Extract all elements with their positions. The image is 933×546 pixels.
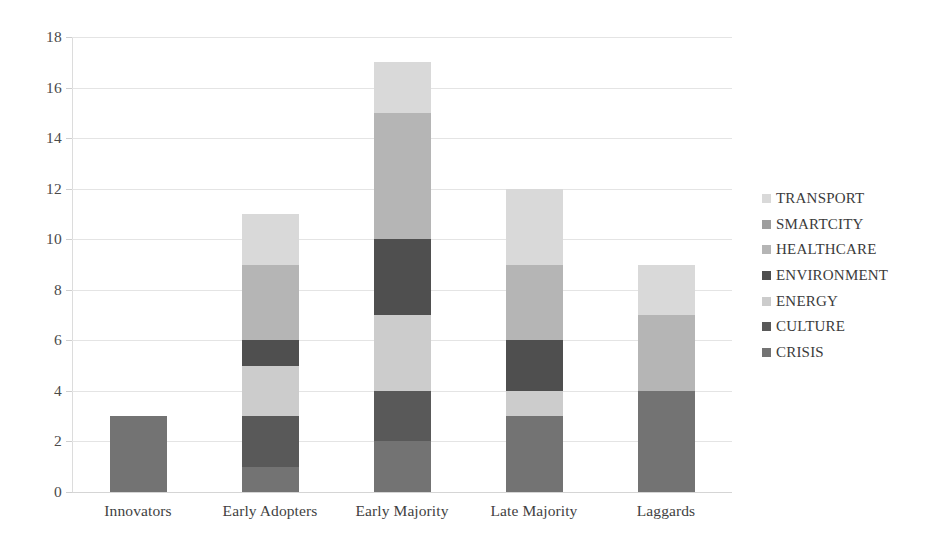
bar-segment-crisis[interactable] [638, 391, 695, 492]
bar-segment-transport[interactable] [506, 189, 563, 265]
bar-segment-crisis[interactable] [242, 467, 299, 492]
legend-item-energy[interactable]: ENERGY [762, 288, 888, 314]
legend-swatch-icon [762, 245, 771, 254]
bar-segment-transport[interactable] [638, 265, 695, 316]
bar-segment-transport[interactable] [242, 214, 299, 265]
x-tick-label: Innovators [72, 502, 204, 520]
plot-area [72, 37, 732, 492]
legend-label: ENERGY [776, 293, 838, 310]
bar-segment-energy[interactable] [506, 391, 563, 416]
legend-label: ENVIRONMENT [776, 267, 888, 284]
x-tick-label: Late Majority [468, 502, 600, 520]
bar-segment-energy[interactable] [242, 366, 299, 417]
y-tick-label: 14 [46, 129, 62, 147]
bar-stack-laggards[interactable] [638, 37, 695, 492]
bar-segment-environment[interactable] [374, 239, 431, 315]
x-tick-label: Early Adopters [204, 502, 336, 520]
bar-segment-crisis[interactable] [110, 416, 167, 492]
gridline [72, 492, 732, 493]
legend-item-culture[interactable]: CULTURE [762, 314, 888, 340]
y-tick-label: 2 [54, 432, 62, 450]
legend-swatch-icon [762, 348, 771, 357]
legend-label: TRANSPORT [776, 190, 864, 207]
bar-segment-environment[interactable] [242, 340, 299, 365]
y-tick-label: 18 [46, 28, 62, 46]
y-tick-label: 6 [54, 331, 62, 349]
legend-swatch-icon [762, 194, 771, 203]
legend-item-environment[interactable]: ENVIRONMENT [762, 263, 888, 289]
bar-segment-healthcare[interactable] [638, 315, 695, 391]
legend-label: HEALTHCARE [776, 241, 877, 258]
bar-segment-transport[interactable] [374, 62, 431, 113]
y-tick-label: 10 [46, 230, 62, 248]
bar-segment-healthcare[interactable] [374, 113, 431, 239]
legend-item-smartcity[interactable]: SMARTCITY [762, 212, 888, 238]
bar-segment-environment[interactable] [506, 340, 563, 391]
legend: TRANSPORTSMARTCITYHEALTHCAREENVIRONMENTE… [762, 186, 888, 365]
legend-item-transport[interactable]: TRANSPORT [762, 186, 888, 212]
stacked-bar-chart: 024681012141618 InnovatorsEarly Adopters… [0, 0, 933, 546]
legend-item-healthcare[interactable]: HEALTHCARE [762, 237, 888, 263]
bar-segment-crisis[interactable] [374, 441, 431, 492]
bar-segment-culture[interactable] [242, 416, 299, 467]
y-tick-label: 16 [46, 79, 62, 97]
bar-segment-crisis[interactable] [506, 416, 563, 492]
y-tick-label: 4 [54, 382, 62, 400]
bar-segment-healthcare[interactable] [242, 265, 299, 341]
bar-stack-early-adopters[interactable] [242, 37, 299, 492]
bar-stack-early-majority[interactable] [374, 37, 431, 492]
legend-swatch-icon [762, 297, 771, 306]
legend-swatch-icon [762, 322, 771, 331]
y-tick-label: 8 [54, 281, 62, 299]
y-axis-labels: 024681012141618 [0, 0, 62, 546]
bar-segment-healthcare[interactable] [506, 265, 563, 341]
legend-label: SMARTCITY [776, 216, 864, 233]
y-tick-label: 0 [54, 483, 62, 501]
y-tick-label: 12 [46, 180, 62, 198]
bar-segment-energy[interactable] [374, 315, 431, 391]
x-tick-label: Early Majority [336, 502, 468, 520]
bar-stack-late-majority[interactable] [506, 37, 563, 492]
legend-swatch-icon [762, 271, 771, 280]
legend-item-crisis[interactable]: CRISIS [762, 340, 888, 366]
legend-label: CRISIS [776, 344, 824, 361]
x-tick-label: Laggards [600, 502, 732, 520]
bar-stack-innovators[interactable] [110, 37, 167, 492]
bar-segment-culture[interactable] [374, 391, 431, 442]
legend-label: CULTURE [776, 318, 845, 335]
legend-swatch-icon [762, 220, 771, 229]
